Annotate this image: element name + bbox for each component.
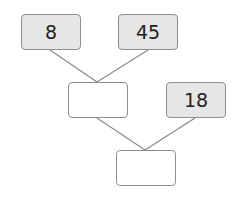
line-top-left-to-middle bbox=[50, 50, 97, 82]
box-value: 8 bbox=[45, 21, 57, 43]
line-top-right-to-middle bbox=[97, 50, 148, 82]
box-middle-right: 18 bbox=[166, 82, 226, 118]
line-middle-to-bottom bbox=[97, 118, 145, 150]
box-value: 45 bbox=[136, 21, 160, 43]
box-top-left: 8 bbox=[21, 14, 81, 50]
box-bottom-answer[interactable] bbox=[116, 150, 176, 186]
box-top-right: 45 bbox=[118, 14, 178, 50]
line-right-to-bottom bbox=[145, 118, 195, 150]
box-value: 18 bbox=[184, 89, 208, 111]
box-middle-left-answer[interactable] bbox=[68, 82, 128, 118]
